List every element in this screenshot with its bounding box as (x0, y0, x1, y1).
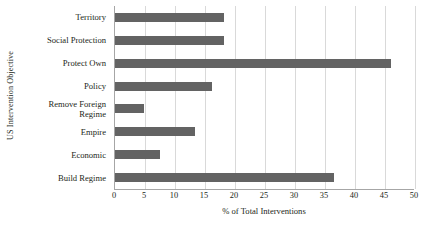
bar-row (115, 29, 414, 52)
category-label: Economic (18, 144, 110, 167)
category-label: Territory (18, 6, 110, 29)
x-axis-tick-label: 45 (380, 191, 388, 200)
gridline (415, 6, 416, 189)
x-axis-tick-label: 30 (290, 191, 298, 200)
y-axis-title: US Intervention Objective (0, 0, 20, 190)
y-axis-title-text: US Intervention Objective (6, 51, 15, 140)
x-axis-tick-label: 40 (350, 191, 358, 200)
bar-chart: US Intervention Objective TerritorySocia… (0, 0, 434, 227)
category-label-line: Regime (48, 110, 106, 119)
x-axis-tick-label: 0 (112, 191, 116, 200)
category-label-line: Social Protection (47, 36, 106, 45)
plot-area (114, 6, 414, 190)
bar-row (115, 75, 414, 98)
category-label: Policy (18, 75, 110, 98)
x-axis-tick-label: 50 (410, 191, 418, 200)
bar-row (115, 166, 414, 189)
bar (115, 173, 334, 182)
x-axis-tick-label: 25 (260, 191, 268, 200)
bar (115, 36, 224, 45)
category-label-line: Build Regime (58, 174, 106, 183)
category-label: Empire (18, 121, 110, 144)
x-axis-tick-label: 15 (200, 191, 208, 200)
category-label: Social Protection (18, 29, 110, 52)
category-label-line: Empire (81, 128, 106, 137)
bar-row (115, 143, 414, 166)
x-axis-title: % of Total Interventions (114, 206, 414, 216)
bar (115, 127, 195, 136)
bar-row (115, 6, 414, 29)
bar-row (115, 52, 414, 75)
bar (115, 13, 224, 22)
x-axis-tick-labels: 05101520253035404550 (114, 191, 414, 205)
y-axis-category-labels: TerritorySocial ProtectionProtect OwnPol… (18, 6, 110, 190)
x-axis-tick-label: 5 (142, 191, 146, 200)
bar-row (115, 98, 414, 121)
category-label-line: Protect Own (63, 59, 106, 68)
x-axis-tick-label: 35 (320, 191, 328, 200)
bar (115, 104, 144, 113)
bar (115, 82, 212, 91)
category-label-line: Territory (76, 13, 106, 22)
category-label: Remove ForeignRegime (18, 98, 110, 121)
x-axis-tick-label: 20 (230, 191, 238, 200)
x-axis-tick-label: 10 (170, 191, 178, 200)
category-label: Protect Own (18, 52, 110, 75)
bar (115, 59, 391, 68)
bar (115, 150, 160, 159)
category-label-line: Policy (84, 82, 106, 91)
bar-series (115, 6, 414, 189)
bar-row (115, 120, 414, 143)
category-label: Build Regime (18, 167, 110, 190)
category-label-line: Economic (71, 151, 106, 160)
